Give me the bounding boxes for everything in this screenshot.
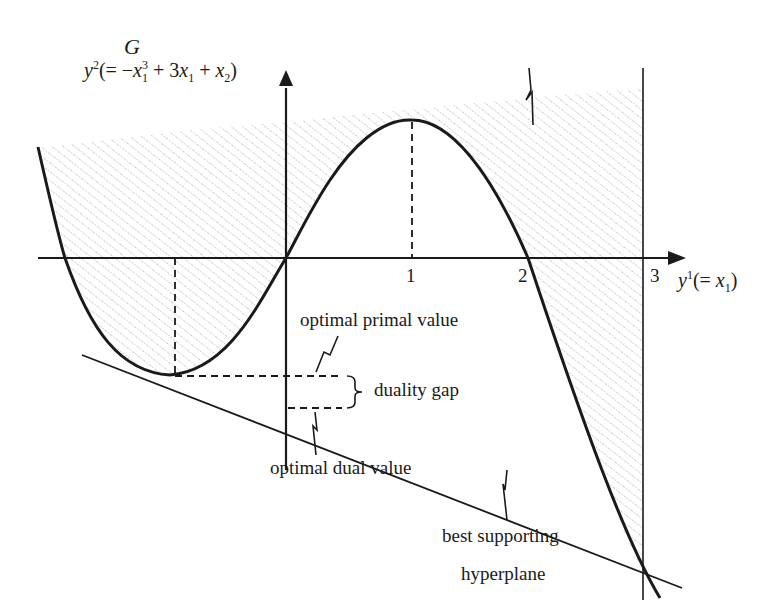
- hyperplane-leader-icon: [503, 470, 507, 520]
- primal-leader-icon: [316, 336, 338, 372]
- y-axis-arrow-icon: [279, 70, 293, 86]
- hyperplane-label-line2: hyperplane: [461, 564, 545, 583]
- x-axis-label: y1(= x1): [678, 270, 737, 290]
- duality-gap-brace: [347, 376, 362, 408]
- x-tick-3: 3: [650, 266, 660, 285]
- hyperplane-label-line1: best supporting: [442, 526, 559, 545]
- optimal-primal-label: optimal primal value: [300, 310, 458, 329]
- x-tick-1: 1: [406, 266, 416, 285]
- x-axis-arrow-icon: [668, 251, 686, 265]
- y-axis-label: y2(= −x13 + 3x1 + x2): [84, 60, 237, 80]
- duality-gap-label: duality gap: [374, 380, 459, 399]
- region-g-label: G: [124, 36, 140, 58]
- dual-leader-icon: [313, 412, 317, 455]
- diagram-canvas: [0, 0, 779, 611]
- x-tick-2: 2: [518, 266, 528, 285]
- region-g-shading: [30, 80, 650, 590]
- optimal-dual-label: optimal dual value: [270, 458, 411, 477]
